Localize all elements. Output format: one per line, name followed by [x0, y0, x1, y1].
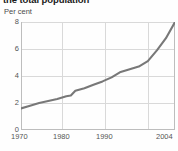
chart-title: the total population: [3, 0, 175, 5]
y-tick-8: 8: [3, 18, 19, 26]
x-axis-tick-labels: 1970 1980 1990 2004: [0, 133, 178, 145]
data-series-line: [21, 22, 175, 108]
x-tick-1990: 1990: [96, 133, 113, 141]
x-tick-1970: 1970: [11, 133, 28, 141]
chart-svg: [21, 22, 175, 130]
chart-figure: the total population Per cent 8 6 4 2 0: [0, 0, 178, 151]
y-tick-2: 2: [3, 99, 19, 107]
y-tick-6: 6: [3, 45, 19, 53]
x-tick-2004: 2004: [156, 133, 173, 141]
x-tick-1980: 1980: [53, 133, 70, 141]
plot-area: [21, 22, 175, 130]
y-axis-tick-labels: 8 6 4 2 0: [0, 0, 19, 151]
horizontal-gridlines: [21, 23, 175, 104]
y-tick-4: 4: [3, 72, 19, 80]
